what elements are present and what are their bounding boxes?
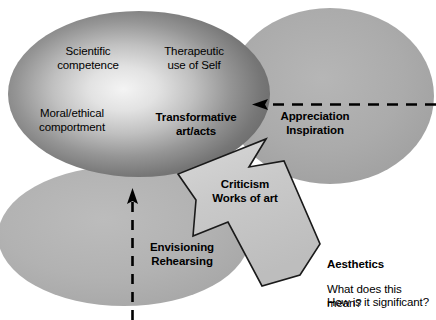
- label-scientific-competence: Scientific competence: [43, 45, 133, 72]
- label-appreciation-inspiration: Appreciation Inspiration: [271, 110, 359, 137]
- transformative-art-acts-ellipse: [8, 11, 270, 177]
- caption-heading-aesthetics: Aesthetics: [327, 258, 432, 272]
- label-transformative-art-acts: Transformative art/acts: [143, 111, 249, 138]
- label-therapeutic-use-of-self: Therapeutic use of Self: [148, 45, 240, 72]
- label-criticism-works-of-art: Criticism Works of art: [199, 178, 291, 205]
- caption-line-how-is-it-significant: How is it significant?: [327, 296, 436, 310]
- label-envisioning-rehearsing: Envisioning Rehearsing: [140, 241, 224, 268]
- diagram-canvas: Scientific competence Therapeutic use of…: [0, 0, 436, 320]
- label-moral-ethical-comportment: Moral/ethical comportment: [22, 107, 122, 134]
